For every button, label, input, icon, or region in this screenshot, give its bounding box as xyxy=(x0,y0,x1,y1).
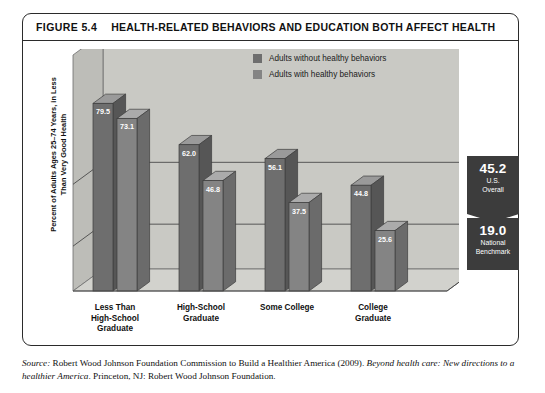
benchmark-label-line1: National xyxy=(481,239,506,246)
figure-container: FIGURE 5.4 HEALTH-RELATED BEHAVIORS AND … xyxy=(22,13,519,346)
x-axis-label-line: Less Than xyxy=(95,303,136,312)
x-axis-label-line: High-School xyxy=(91,314,139,323)
legend-swatch-with xyxy=(253,70,262,79)
plot-3d-box: 79.573.162.046.856.137.544.825.6 xyxy=(59,49,459,305)
figure-title: HEALTH-RELATED BEHAVIORS AND EDUCATION B… xyxy=(111,21,495,33)
x-axis-label-line: College xyxy=(358,303,388,312)
bar-chart-svg: 79.573.162.046.856.137.544.825.6 xyxy=(59,49,459,305)
svg-text:44.8: 44.8 xyxy=(354,189,368,198)
x-axis-label-line: Graduate xyxy=(183,314,219,323)
source-text-a: Robert Wood Johnson Foundation Commissio… xyxy=(50,358,366,368)
x-axis-label-line: Graduate xyxy=(97,324,133,333)
svg-text:56.1: 56.1 xyxy=(268,163,282,172)
benchmark-value: 45.2 xyxy=(467,161,519,176)
x-axis-label: Some College xyxy=(239,303,335,314)
x-axis-label-line: Graduate xyxy=(355,314,391,323)
benchmark-value: 19.0 xyxy=(467,223,519,238)
svg-text:37.5: 37.5 xyxy=(292,207,306,216)
svg-text:73.1: 73.1 xyxy=(120,122,134,131)
source-text-b: . Princeton, NJ: Robert Wood Johnson Fou… xyxy=(88,371,275,381)
source-title-part1: Beyond health xyxy=(367,358,420,368)
figure-number: FIGURE 5.4 xyxy=(36,21,97,33)
x-axis-label: High-SchoolGraduate xyxy=(153,303,249,324)
x-axis-label-line: Some College xyxy=(260,303,314,312)
benchmark-label: U.S. Overall xyxy=(467,176,519,198)
legend-label-without: Adults without healthy behaviors xyxy=(269,54,386,63)
source-prefix: Source: xyxy=(22,358,50,368)
legend-item: Adults without healthy behaviors xyxy=(253,54,386,63)
x-axis-label-line: High-School xyxy=(177,303,225,312)
figure-header: FIGURE 5.4 HEALTH-RELATED BEHAVIORS AND … xyxy=(23,14,518,41)
benchmark-label-line2: Overall xyxy=(482,186,504,193)
chart-legend: Adults without healthy behaviors Adults … xyxy=(253,54,386,86)
source-citation: Source: Robert Wood Johnson Foundation C… xyxy=(22,357,522,382)
x-axis-label: Less ThanHigh-SchoolGraduate xyxy=(67,303,163,335)
benchmark-callout-national-benchmark: 19.0 National Benchmark xyxy=(467,218,519,270)
benchmark-callout-us-overall: 45.2 U.S. Overall xyxy=(467,156,519,214)
legend-swatch-without xyxy=(253,54,262,63)
legend-item: Adults with healthy behaviors xyxy=(253,70,386,79)
x-axis-label: CollegeGraduate xyxy=(325,303,421,324)
svg-text:79.5: 79.5 xyxy=(96,107,110,116)
svg-text:25.6: 25.6 xyxy=(378,235,392,244)
benchmark-label-line1: U.S. xyxy=(486,177,499,184)
svg-text:62.0: 62.0 xyxy=(182,149,196,158)
legend-label-with: Adults with healthy behaviors xyxy=(269,70,375,79)
chart-area: Percent of Adults Ages 25–74 Years, in L… xyxy=(23,41,518,345)
benchmark-label-line2: Benchmark xyxy=(476,248,510,255)
benchmark-label: National Benchmark xyxy=(467,238,519,260)
x-axis-category-labels: Less ThanHigh-SchoolGraduateHigh-SchoolG… xyxy=(59,303,459,345)
svg-text:46.8: 46.8 xyxy=(206,185,220,194)
